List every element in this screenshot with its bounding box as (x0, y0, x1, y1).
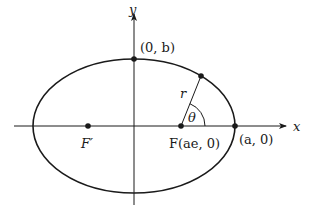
other-focus-label: F′ (80, 136, 93, 151)
other-focus-point (85, 123, 91, 129)
top-vertex-point (131, 56, 137, 62)
right-vertex-point (232, 123, 238, 129)
x-axis-label: x (293, 119, 301, 134)
focus-point (178, 123, 184, 129)
orbit-point (198, 73, 204, 79)
right-vertex-label: (a, 0) (239, 132, 273, 147)
focus-label: F(ae, 0) (169, 136, 220, 151)
radius-label: r (180, 86, 187, 101)
ellipse-diagram: y x (0, b) (a, 0) F(ae, 0) F′ r θ (0, 0, 314, 214)
angle-label: θ (188, 110, 196, 125)
top-vertex-label: (0, b) (140, 40, 175, 55)
y-axis-label: y (128, 2, 137, 17)
